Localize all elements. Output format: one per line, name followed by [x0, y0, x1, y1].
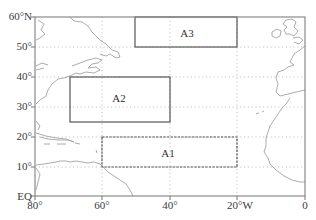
x-tick-label-40w: 40°: [162, 200, 177, 211]
region-label-a3: A3: [180, 27, 193, 39]
x-tick-label-60w: 60°: [94, 200, 109, 211]
y-tick-label-30: 30°: [17, 101, 32, 112]
region-label-a2: A2: [112, 92, 125, 104]
y-tick-label-50: 50°: [17, 41, 32, 52]
x-tick-label-20w: 20°W: [227, 200, 253, 211]
y-tick-label-60n: 60°N: [9, 11, 32, 22]
y-tick-label-20: 20°: [17, 131, 32, 142]
y-tick-label-40: 40°: [17, 71, 32, 82]
region-boxes: [70, 17, 237, 167]
axes-frame: [31, 17, 305, 200]
x-tick-label-80w: 80°: [27, 200, 42, 211]
x-tick-label-0: 0: [302, 200, 308, 211]
region-label-a1: A1: [161, 147, 174, 159]
y-tick-label-10: 10°: [17, 161, 32, 172]
map-canvas: [0, 0, 316, 220]
